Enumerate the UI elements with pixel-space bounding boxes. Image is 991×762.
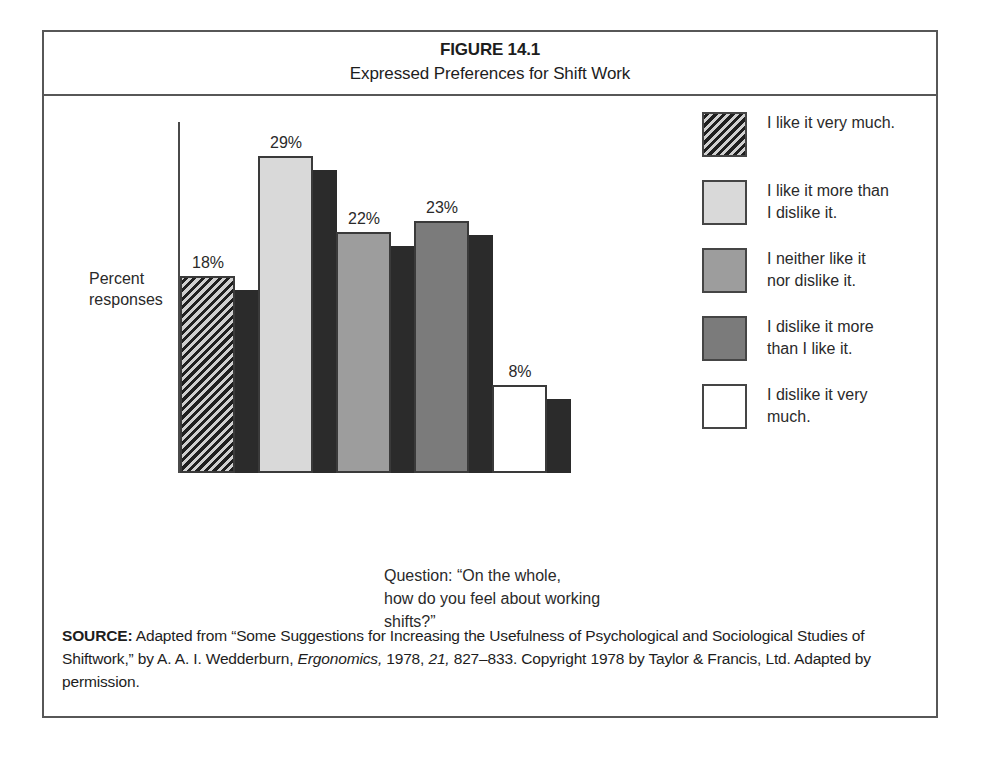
legend-item-3[interactable]: I neither like itnor dislike it.	[702, 248, 934, 294]
bar-group-3: 22%	[336, 204, 416, 473]
legend-item-5[interactable]: I dislike it verymuch.	[702, 384, 934, 430]
figure-title-band: FIGURE 14.1 Expressed Preferences for Sh…	[44, 32, 936, 96]
legend-item-1[interactable]: I like it very much.	[702, 112, 934, 158]
legend-item-2[interactable]: I like it more thanI dislike it.	[702, 180, 934, 226]
bar-5-dislike-very-much[interactable]	[492, 385, 547, 473]
bar-group-5: 8%	[492, 357, 572, 473]
legend-label-3-line2: nor dislike it.	[767, 270, 866, 292]
bar-value-label-3: 22%	[334, 210, 394, 228]
legend-item-4[interactable]: I dislike it morethan I like it.	[702, 316, 934, 362]
legend-label-4-line1: I dislike it more	[767, 316, 874, 338]
legend-swatch-3	[702, 248, 747, 293]
bar-3-neither-like-nor-dislike-shadow	[389, 246, 415, 473]
legend-label-2: I like it more thanI dislike it.	[767, 180, 889, 224]
chart-legend: I like it very much.I like it more thanI…	[702, 112, 934, 452]
question-annotation: Question: “On the whole, how do you feel…	[384, 564, 714, 633]
legend-label-2-line1: I like it more than	[767, 180, 889, 202]
bar-3-neither-like-nor-dislike[interactable]	[336, 232, 391, 473]
legend-label-1-line1: I like it very much.	[767, 112, 895, 134]
source-label: SOURCE:	[62, 627, 132, 644]
bar-group-1: 18%	[180, 248, 260, 473]
bar-4-dislike-more-than-like[interactable]	[414, 221, 469, 473]
legend-label-3: I neither like itnor dislike it.	[767, 248, 866, 292]
legend-label-1: I like it very much.	[767, 112, 895, 134]
question-line-2: how do you feel about working	[384, 587, 714, 610]
bar-group-4: 23%	[414, 193, 494, 473]
legend-label-2-line2: I dislike it.	[767, 202, 889, 224]
legend-label-4: I dislike it morethan I like it.	[767, 316, 874, 360]
source-volume: 21,	[428, 650, 449, 667]
page-title: Expressed Preferences for Shift Work	[44, 60, 936, 84]
legend-label-5-line1: I dislike it very	[767, 384, 867, 406]
figure-frame: FIGURE 14.1 Expressed Preferences for Sh…	[42, 30, 938, 718]
legend-label-5-line2: much.	[767, 406, 867, 428]
bar-value-label-1: 18%	[178, 254, 238, 272]
source-note: SOURCE: Adapted from “Some Suggestions f…	[62, 624, 918, 693]
source-journal-title: Ergonomics,	[298, 650, 383, 667]
bar-value-label-5: 8%	[490, 363, 550, 381]
legend-label-4-line2: than I like it.	[767, 338, 874, 360]
source-text-part2: 1978,	[382, 650, 428, 667]
bar-5-dislike-very-much-shadow	[545, 399, 571, 473]
legend-label-5: I dislike it verymuch.	[767, 384, 867, 428]
legend-swatch-1	[702, 112, 747, 157]
legend-swatch-5	[702, 384, 747, 429]
bar-value-label-2: 29%	[256, 134, 316, 152]
legend-swatch-4	[702, 316, 747, 361]
legend-label-3-line1: I neither like it	[767, 248, 866, 270]
bar-1-like-very-much[interactable]	[180, 276, 235, 473]
bar-4-dislike-more-than-like-shadow	[467, 235, 493, 473]
bar-value-label-4: 23%	[412, 199, 472, 217]
bar-2-like-more-than-dislike[interactable]	[258, 156, 313, 473]
question-line-1: Question: “On the whole,	[384, 564, 714, 587]
legend-swatch-2	[702, 180, 747, 225]
figure-number: FIGURE 14.1	[44, 32, 936, 60]
bar-group-2: 29%	[258, 128, 338, 473]
bar-1-like-very-much-shadow	[233, 290, 259, 473]
